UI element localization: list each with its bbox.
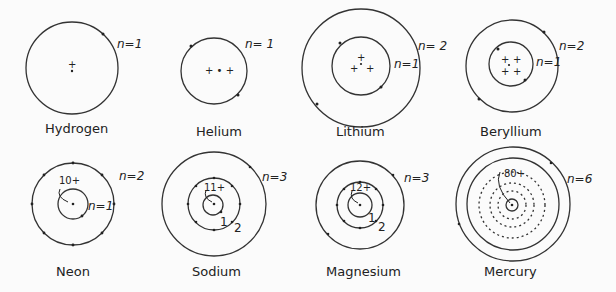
- shell-label-n1: n=1: [394, 57, 419, 71]
- atom-mercury: 80+ n=6 Mercury: [456, 147, 593, 279]
- shell-label-n1: n=1: [117, 37, 142, 51]
- electron: [190, 45, 193, 48]
- nucleus-label: 12+: [350, 182, 371, 193]
- shell-label-1: 1: [368, 211, 376, 225]
- nucleus-label: + • +: [205, 65, 234, 76]
- shell-label-2: 2: [234, 221, 242, 235]
- atom-name: Hydrogen: [45, 121, 108, 136]
- shell-label-n1: n= 1: [245, 37, 274, 51]
- shell-label-n6: n=6: [567, 172, 593, 186]
- shell-label-n3: n=3: [404, 171, 429, 185]
- electron: [392, 174, 395, 177]
- proton: +: [513, 66, 521, 77]
- electron: [220, 211, 223, 214]
- orbit-n6: [456, 147, 570, 261]
- nucleus-dot: [213, 203, 216, 206]
- electron: [478, 98, 481, 101]
- shell-label-2: 2: [378, 220, 386, 234]
- nucleus-dot: [71, 70, 73, 72]
- atom-name: Magnesium: [326, 264, 401, 279]
- electron: [81, 215, 84, 218]
- atom-name: Beryllium: [480, 124, 542, 139]
- electron: [327, 233, 330, 236]
- electron: [316, 103, 319, 106]
- nucleus-dot: [508, 64, 510, 66]
- atom-hydrogen: + n=1 Hydrogen: [26, 22, 142, 136]
- shell-label-n1: n=1: [88, 199, 113, 213]
- proton: +: [357, 52, 365, 63]
- electron: [102, 33, 105, 36]
- proton: +: [501, 66, 509, 77]
- electron: [458, 223, 461, 226]
- atom-helium: + • + n= 1 Helium: [181, 37, 274, 139]
- atom-name: Helium: [196, 124, 242, 139]
- electron: [543, 31, 546, 34]
- electron: [497, 48, 500, 51]
- nucleus-dot: [511, 204, 514, 207]
- proton: +: [350, 63, 358, 74]
- atom-name: Neon: [56, 264, 90, 279]
- proton: +: [513, 54, 521, 65]
- proton: +: [366, 63, 374, 74]
- shell-label-n2: n=2: [119, 169, 144, 183]
- atom-beryllium: + + + + n=1 n=2 Beryllium: [466, 20, 584, 139]
- bohr-diagram: + n=1 Hydrogen + • + n= 1 Helium + + + n…: [0, 0, 616, 292]
- nucleus-dot: [72, 203, 75, 206]
- shell-label-n2: n= 2: [418, 39, 447, 53]
- atom-neon: 10+ n=1 n=2 Neon: [31, 162, 145, 279]
- electron: [249, 166, 252, 169]
- electron: [524, 79, 527, 82]
- nucleus-label: 10+: [59, 175, 80, 186]
- atom-name: Lithium: [336, 124, 385, 139]
- nucleus-dot: [360, 63, 362, 65]
- electron: [339, 42, 342, 45]
- nucleus-dot: [359, 204, 362, 207]
- shell-label-n2: n=2: [559, 39, 584, 53]
- electron: [237, 94, 240, 97]
- nucleus-label: 80+: [504, 168, 525, 179]
- nucleus-label: +: [68, 59, 76, 70]
- atom-sodium: 11+ 1 2 n=3 Sodium: [162, 152, 287, 279]
- electron: [380, 86, 383, 89]
- atom-lithium: + + + n=1 n= 2 Lithium: [302, 9, 447, 139]
- nucleus-label: 11+: [204, 182, 225, 193]
- atom-name: Mercury: [484, 264, 537, 279]
- atom-magnesium: 12+ 1 2 n=3 Magnesium: [316, 161, 429, 279]
- atom-name: Sodium: [192, 264, 241, 279]
- shell-label-1: 1: [220, 215, 228, 229]
- shell-label-n3: n=3: [262, 170, 287, 184]
- electron: [550, 162, 553, 165]
- orbit-n1: [489, 42, 533, 86]
- proton: +: [501, 54, 509, 65]
- shell-label-n1: n=1: [536, 55, 561, 69]
